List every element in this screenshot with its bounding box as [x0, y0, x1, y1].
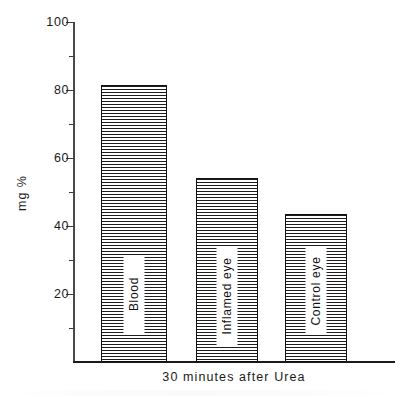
y-tick-minor — [69, 124, 75, 125]
bar-blood: Blood — [101, 85, 167, 362]
y-tick-minor — [69, 56, 75, 57]
bar-label-control-eye: Control eye — [306, 247, 327, 335]
bar-label-text: Inflamed eye — [221, 257, 233, 334]
y-tick-label: 40 — [54, 220, 69, 233]
y-tick-label: 20 — [54, 288, 69, 301]
bar-chart-figure: mg % 10080604020 BloodInflamed eyeContro… — [0, 0, 418, 399]
bar-label-inflamed-eye: Inflamed eye — [217, 247, 238, 345]
y-tick-label: 100 — [46, 16, 69, 29]
bar-inflamed-eye: Inflamed eye — [196, 178, 258, 362]
bar-label-text: Blood — [128, 277, 140, 311]
bar-label-text: Control eye — [310, 256, 322, 325]
y-axis-line — [73, 22, 75, 363]
y-tick-minor — [69, 260, 75, 261]
x-axis-caption: 30 minutes after Urea — [73, 370, 395, 384]
y-tick-label: 80 — [54, 84, 69, 97]
scan-artifact — [0, 390, 418, 396]
y-tick-minor — [69, 192, 75, 193]
bar-control-eye: Control eye — [285, 214, 347, 362]
y-axis-title: mg % — [15, 173, 29, 213]
bar-label-blood: Blood — [124, 255, 145, 333]
y-tick-minor — [69, 328, 75, 329]
y-tick-label: 60 — [54, 152, 69, 165]
